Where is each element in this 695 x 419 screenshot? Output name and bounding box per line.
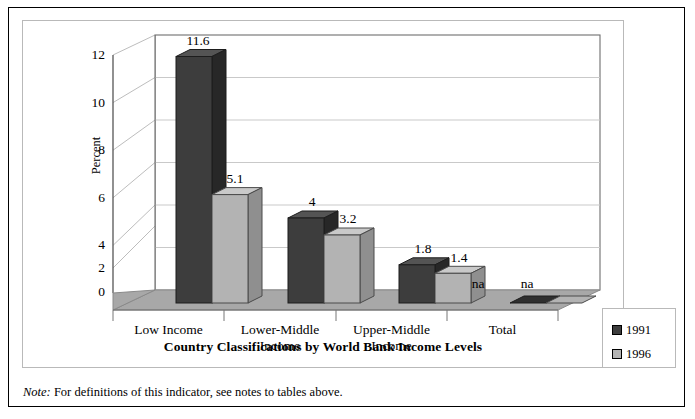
x-category-upper-middle-income-line1: Upper-Middle [336, 322, 447, 338]
footnote: Note: For definitions of this indicator,… [23, 385, 663, 399]
legend-swatch-1996 [612, 349, 622, 359]
value-label-low-income-1996: 5.1 [205, 172, 265, 186]
x-category-total-line1: Total [447, 322, 558, 338]
y-tick-2: 2 [75, 261, 105, 275]
y-tick-12: 12 [75, 48, 105, 62]
legend-label-1996: 1996 [626, 348, 651, 361]
chart-legend: 1991 1996 [602, 308, 676, 368]
legend-item-1991: 1991 [612, 324, 651, 337]
legend-swatch-1991 [612, 325, 622, 335]
y-tick-4: 4 [75, 238, 105, 252]
footnote-text: For definitions of this indicator, see n… [54, 385, 343, 399]
x-category-total: Total [447, 322, 558, 338]
value-label-low-income-1991: 11.6 [168, 34, 228, 48]
value-label-upper-middle-1996: 1.4 [429, 251, 489, 265]
value-label-lower-middle-1996: 3.2 [318, 212, 378, 226]
x-category-low-income-line1: Low Income [113, 322, 224, 338]
chart-panel [22, 20, 624, 368]
y-tick-0: 0 [75, 285, 105, 299]
legend-item-1996: 1996 [612, 348, 651, 361]
x-category-lower-middle-income-line1: Lower-Middle [224, 322, 336, 338]
chart-page: 12 10 8 6 4 2 0 Percent 11.6 5.1 4 3.2 1… [0, 0, 695, 419]
x-axis-title: Country Classifications by World Bank In… [22, 339, 624, 355]
legend-label-1991: 1991 [626, 324, 651, 337]
value-label-total-1996: na [497, 277, 557, 291]
value-label-lower-middle-1991: 4 [282, 195, 342, 209]
y-tick-10: 10 [75, 96, 105, 110]
y-axis-title: Percent [89, 116, 104, 196]
x-category-low-income: Low Income [113, 322, 224, 338]
footnote-prefix: Note: [23, 385, 51, 399]
